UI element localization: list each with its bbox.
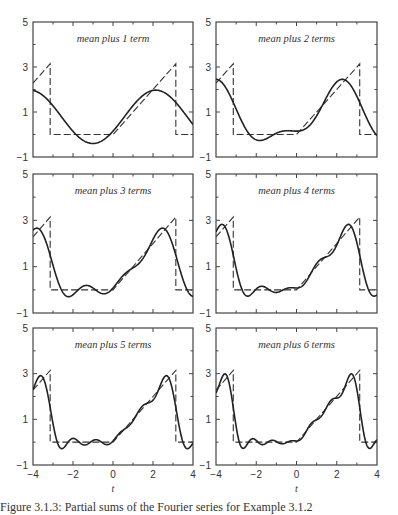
panel-2: −1135mean plus 2 terms bbox=[200, 17, 377, 163]
y-tick-label: 1 bbox=[205, 414, 211, 425]
x-tick-label: 2 bbox=[334, 469, 340, 480]
partial-sum-line bbox=[33, 376, 193, 449]
panel-title: mean plus 6 terms bbox=[258, 339, 335, 350]
y-tick-label: 1 bbox=[205, 107, 211, 118]
y-tick-label: 5 bbox=[22, 323, 28, 334]
x-tick-label: 4 bbox=[374, 469, 380, 480]
panel-6: −1135−4−2024tmean plus 6 terms bbox=[200, 323, 381, 495]
panel-4: −1135mean plus 4 terms bbox=[200, 169, 377, 319]
x-axis-label: t bbox=[295, 483, 298, 494]
y-tick-label: 1 bbox=[22, 414, 28, 425]
y-tick-label: −1 bbox=[17, 152, 29, 163]
x-tick-label: 0 bbox=[110, 469, 116, 480]
target-function-line bbox=[33, 64, 193, 135]
panel-title: mean plus 5 terms bbox=[75, 339, 152, 350]
partial-sum-line bbox=[216, 79, 377, 140]
x-tick-label: 0 bbox=[294, 469, 300, 480]
y-tick-label: 1 bbox=[22, 261, 28, 272]
x-tick-label: −4 bbox=[27, 469, 39, 480]
x-axis-label: t bbox=[112, 483, 115, 494]
panel-title: mean plus 3 terms bbox=[75, 185, 152, 196]
partial-sum-line bbox=[216, 224, 377, 296]
y-tick-label: 5 bbox=[205, 169, 211, 180]
panel-title: mean plus 4 terms bbox=[258, 185, 335, 196]
y-tick-label: 3 bbox=[205, 215, 211, 226]
figure-caption: Figure 3.1.3: Partial sums of the Fourie… bbox=[0, 500, 313, 515]
y-tick-label: 1 bbox=[205, 261, 211, 272]
y-tick-label: 1 bbox=[22, 107, 28, 118]
y-tick-label: 5 bbox=[22, 17, 28, 28]
y-tick-label: 3 bbox=[22, 62, 28, 73]
y-tick-label: 3 bbox=[205, 62, 211, 73]
x-tick-label: −2 bbox=[67, 469, 79, 480]
panel-title: mean plus 1 term bbox=[77, 33, 150, 44]
y-tick-label: 5 bbox=[205, 323, 211, 334]
panel-5: −1135−4−2024tmean plus 5 terms bbox=[17, 323, 197, 495]
x-tick-label: 2 bbox=[150, 469, 156, 480]
panel-1: −1135mean plus 1 term bbox=[17, 17, 193, 163]
y-tick-label: 5 bbox=[22, 169, 28, 180]
panel-title: mean plus 2 terms bbox=[258, 33, 335, 44]
y-tick-label: 3 bbox=[22, 215, 28, 226]
y-tick-label: 3 bbox=[22, 368, 28, 379]
x-tick-label: 4 bbox=[190, 469, 196, 480]
target-function-line bbox=[216, 370, 377, 442]
partial-sum-line bbox=[216, 374, 377, 449]
y-tick-label: 5 bbox=[205, 17, 211, 28]
partial-sum-line bbox=[33, 228, 193, 297]
target-function-line bbox=[216, 64, 377, 135]
x-tick-label: −4 bbox=[210, 469, 222, 480]
target-function-line bbox=[33, 370, 193, 442]
y-tick-label: −1 bbox=[17, 308, 29, 319]
y-tick-label: 3 bbox=[205, 368, 211, 379]
partial-sum-line bbox=[33, 90, 193, 143]
y-tick-label: −1 bbox=[200, 308, 212, 319]
x-tick-label: −2 bbox=[251, 469, 263, 480]
y-tick-label: −1 bbox=[200, 152, 212, 163]
panel-3: −1135mean plus 3 terms bbox=[17, 169, 193, 319]
